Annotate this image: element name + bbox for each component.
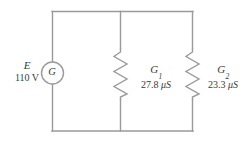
branch-2-label: G2 23.3 μS bbox=[198, 60, 248, 91]
branch-2-subscript: 2 bbox=[226, 72, 230, 81]
branch-1-label: G1 27.8 μS bbox=[128, 60, 184, 91]
generator-letter-label: G bbox=[41, 66, 63, 77]
branch-2-symbol: G bbox=[217, 63, 225, 75]
branch-1-unit: μS bbox=[161, 79, 171, 90]
branch-1-value-row: 27.8 μS bbox=[128, 80, 184, 91]
source-symbol-label: E bbox=[12, 60, 42, 72]
branch-1-name: G1 bbox=[128, 60, 184, 79]
source-voltage-value: 110 V bbox=[12, 73, 42, 84]
branch-1-symbol: G bbox=[150, 63, 158, 75]
branch-1-subscript: 1 bbox=[159, 72, 163, 81]
branch-1-value: 27.8 bbox=[141, 79, 159, 90]
resistor-symbol-branch-1 bbox=[114, 48, 127, 100]
circuit-diagram: E 110 V G G1 27.8 μS G2 23.3 μS bbox=[0, 0, 248, 144]
branch-2-value: 23.3 bbox=[208, 79, 226, 90]
source-label: E 110 V bbox=[12, 60, 42, 83]
branch-2-name: G2 bbox=[198, 60, 248, 79]
branch-2-unit: μS bbox=[228, 79, 238, 90]
branch-2-value-row: 23.3 μS bbox=[198, 80, 248, 91]
